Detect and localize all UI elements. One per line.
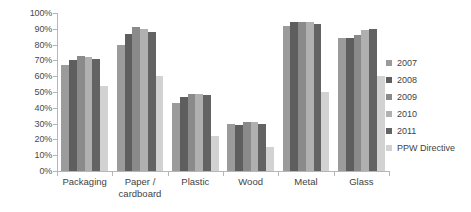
bar[interactable] <box>172 103 180 171</box>
legend-label: 2011 <box>397 126 416 136</box>
legend-item[interactable]: 2007 <box>386 54 471 71</box>
x-axis-tick-mark <box>168 171 169 176</box>
x-axis-tick-mark <box>278 171 279 176</box>
bar-group <box>334 13 389 171</box>
bar[interactable] <box>140 29 148 171</box>
legend-swatch-icon <box>386 128 392 134</box>
x-axis-category-label: Metal <box>278 176 333 200</box>
bar[interactable] <box>211 136 219 171</box>
bar-group-bars <box>338 13 384 171</box>
y-axis-tick-label: 70% <box>35 55 52 65</box>
bar[interactable] <box>61 65 69 171</box>
y-axis-tick-mark <box>53 76 57 77</box>
bar[interactable] <box>117 45 125 171</box>
x-axis-tick-mark <box>389 171 390 176</box>
legend-label: PPW Directive <box>397 143 455 153</box>
y-axis-tick-mark <box>53 29 57 30</box>
bar[interactable] <box>251 122 259 171</box>
y-axis-tick-label: 90% <box>35 24 52 34</box>
y-axis-tick-label: 80% <box>35 40 52 50</box>
y-axis-tick-label: 40% <box>35 103 52 113</box>
x-axis-labels: PackagingPaper / cardboardPlasticWoodMet… <box>57 176 389 200</box>
y-axis-tick-label: 20% <box>35 134 52 144</box>
y-axis-tick-mark <box>53 155 57 156</box>
y-axis-tick-mark <box>53 60 57 61</box>
bar[interactable] <box>125 34 133 171</box>
y-axis-tick-mark <box>53 139 57 140</box>
bar-group <box>223 13 278 171</box>
y-axis-labels: 0%10%20%30%40%50%60%70%80%90%100% <box>0 13 52 171</box>
bar[interactable] <box>346 38 354 171</box>
bar-group <box>112 13 167 171</box>
x-axis-category-label: Packaging <box>57 176 112 200</box>
bar[interactable] <box>361 30 369 171</box>
bar[interactable] <box>180 97 188 171</box>
y-axis-tick-mark <box>53 124 57 125</box>
legend-label: 2009 <box>397 92 417 102</box>
bar[interactable] <box>92 59 100 171</box>
legend-item[interactable]: 2008 <box>386 71 471 88</box>
legend-swatch-icon <box>386 77 392 83</box>
bar[interactable] <box>258 124 266 171</box>
bar[interactable] <box>85 57 93 171</box>
bar[interactable] <box>156 76 164 171</box>
x-axis-tick-mark <box>223 171 224 176</box>
y-axis-tick-label: 50% <box>35 87 52 97</box>
legend-swatch-icon <box>386 60 392 66</box>
bar[interactable] <box>306 22 314 171</box>
bar[interactable] <box>148 32 156 171</box>
y-axis-tick-label: 60% <box>35 71 52 81</box>
bar[interactable] <box>321 92 329 171</box>
legend-label: 2008 <box>397 75 417 85</box>
bar[interactable] <box>203 95 211 171</box>
y-axis-tick-label: 0% <box>39 166 52 176</box>
legend-item[interactable]: 2010 <box>386 105 471 122</box>
bar-group-bars <box>227 13 273 171</box>
y-axis-tick-mark <box>53 92 57 93</box>
legend-item[interactable]: PPW Directive <box>386 139 471 156</box>
bar[interactable] <box>69 60 77 171</box>
bar-group <box>168 13 223 171</box>
bar-group-bars <box>172 13 218 171</box>
x-axis-category-label: Plastic <box>168 176 223 200</box>
x-axis-tick-mark <box>334 171 335 176</box>
legend-label: 2007 <box>397 58 417 68</box>
legend-item[interactable]: 2009 <box>386 88 471 105</box>
plot-area <box>57 13 389 171</box>
legend: 20072008200920102011PPW Directive <box>386 54 471 156</box>
legend-label: 2010 <box>397 109 417 119</box>
bar[interactable] <box>100 86 108 171</box>
bar[interactable] <box>266 147 274 171</box>
bar[interactable] <box>77 56 85 171</box>
bar[interactable] <box>369 29 377 171</box>
legend-item[interactable]: 2011 <box>386 122 471 139</box>
bar[interactable] <box>338 38 346 171</box>
bar[interactable] <box>283 26 291 171</box>
legend-swatch-icon <box>386 145 392 151</box>
bar[interactable] <box>314 24 322 171</box>
bar[interactable] <box>132 27 140 171</box>
bar-group <box>57 13 112 171</box>
bar-group <box>278 13 333 171</box>
x-axis-tick-mark <box>112 171 113 176</box>
bar-group-bars <box>61 13 107 171</box>
bar[interactable] <box>235 125 243 171</box>
bar[interactable] <box>354 35 362 171</box>
y-axis-tick-mark <box>53 108 57 109</box>
y-axis-tick-label: 10% <box>35 150 52 160</box>
bar[interactable] <box>290 22 298 171</box>
bar[interactable] <box>188 94 196 171</box>
x-axis-category-label: Paper / cardboard <box>112 176 167 200</box>
bar[interactable] <box>227 124 235 171</box>
bar[interactable] <box>298 22 306 171</box>
legend-swatch-icon <box>386 94 392 100</box>
bar-chart: 0%10%20%30%40%50%60%70%80%90%100% Packag… <box>0 0 471 212</box>
bar-group-bars <box>283 13 329 171</box>
x-axis-tick-mark <box>57 171 58 176</box>
legend-swatch-icon <box>386 111 392 117</box>
y-axis-tick-label: 100% <box>30 8 52 18</box>
bar[interactable] <box>377 76 385 171</box>
bar[interactable] <box>195 94 203 171</box>
y-axis-tick-mark <box>53 13 57 14</box>
bar[interactable] <box>243 122 251 171</box>
